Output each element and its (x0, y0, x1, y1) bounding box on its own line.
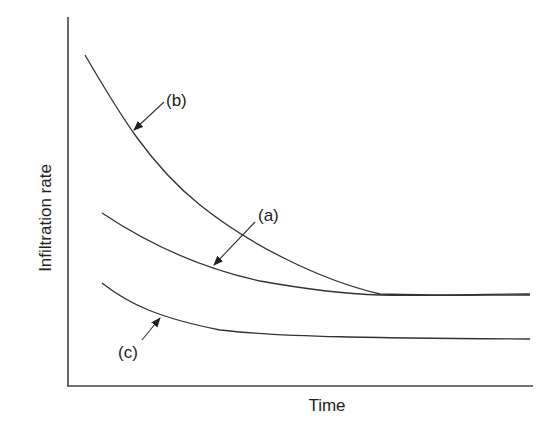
x-axis-label: Time (308, 396, 345, 415)
label-c: (c) (118, 343, 138, 362)
arrow-b (134, 102, 164, 130)
arrow-a (214, 222, 255, 265)
curve-c (102, 283, 530, 339)
arrow-c (142, 318, 160, 340)
y-axis-label: Infiltration rate (36, 164, 55, 272)
infiltration-chart: (b) (a) (c) Time Infiltration rate (0, 0, 553, 428)
curve-b (85, 55, 530, 295)
label-b: (b) (166, 91, 187, 110)
label-a: (a) (258, 206, 279, 225)
curve-a (102, 213, 530, 295)
